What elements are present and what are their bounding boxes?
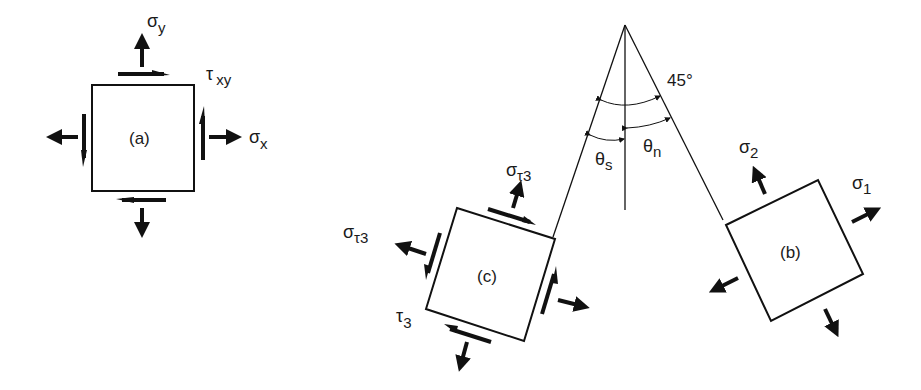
shear-direction-line (553, 25, 625, 237)
stress-transformation-diagram: (a) σy σx τxy 45° θs θn (b) σ2 σ1 (0, 0, 921, 390)
sigma-tau3-top-label: στ3 (506, 160, 531, 184)
element-c-label: (c) (477, 267, 497, 286)
normal-bottom-arrow (461, 342, 467, 364)
theta-n-arc (627, 118, 670, 128)
theta-n-label: θn (643, 136, 661, 160)
theta-s-label: θs (595, 149, 613, 173)
angle-45-label: 45° (667, 71, 693, 90)
sigma-2-label: σ2 (739, 137, 758, 161)
sigma-2-opposite-arrow (825, 309, 835, 330)
element-b-label: (b) (780, 243, 801, 262)
principal-direction-line (625, 25, 723, 220)
sigma-x-label: σx (249, 127, 268, 152)
element-a: (a) σy σx τxy (54, 11, 268, 230)
element-b: (b) σ2 σ1 (716, 137, 874, 330)
tau-3-label: τ3 (396, 306, 411, 331)
sigma-tau3-left-label: στ3 (343, 222, 368, 246)
sigma-y-label: σy (147, 11, 166, 36)
shear-right-c (542, 274, 554, 314)
sigma-1-label: σ1 (852, 173, 871, 197)
angle-45-arc (601, 96, 660, 105)
sigma-tau3-top-arrow (513, 188, 519, 208)
normal-right-arrow (558, 300, 582, 306)
sigma-2-arrow (756, 173, 765, 194)
sigma-1-arrow (852, 211, 874, 222)
theta-s-arc (590, 135, 624, 140)
sigma-1-opposite-arrow (716, 278, 738, 289)
angle-construction: 45° θs θn (553, 25, 723, 237)
sigma-tau3-left-arrow (402, 246, 426, 254)
tau-xy-label: τxy (206, 64, 232, 88)
element-c: (c) στ3 στ3 τ3 (343, 160, 582, 364)
element-a-label: (a) (129, 129, 150, 148)
